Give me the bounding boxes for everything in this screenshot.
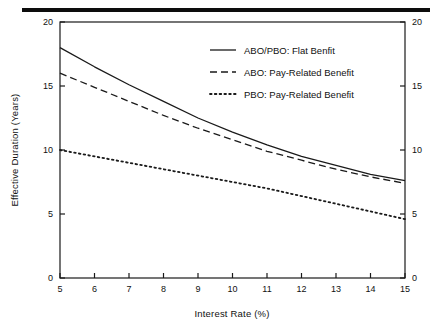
- y-tick-label-right: 10: [412, 145, 422, 155]
- x-tick-label: 7: [126, 284, 131, 294]
- x-tick-label: 13: [331, 284, 341, 294]
- x-tick-label: 10: [227, 284, 237, 294]
- series-line: [60, 150, 405, 219]
- x-tick-label: 5: [57, 284, 62, 294]
- x-axis-ticks: [60, 273, 405, 278]
- chart-canvas: 05101520 05101520 56789101112131415 ABO/…: [0, 0, 444, 326]
- x-axis-title: Interest Rate (%): [194, 308, 269, 319]
- legend: ABO/PBO: Flat BenfitABO: Pay-Related Ben…: [210, 45, 354, 100]
- x-tick-label: 12: [296, 284, 306, 294]
- figure-container: 05101520 05101520 56789101112131415 ABO/…: [0, 0, 444, 326]
- x-tick-label: 6: [92, 284, 97, 294]
- legend-label: PBO: Pay-Related Benefit: [244, 89, 354, 100]
- y-tick-label-left: 20: [43, 17, 53, 27]
- legend-label: ABO/PBO: Flat Benfit: [244, 45, 335, 56]
- y-tick-label-left: 10: [43, 145, 53, 155]
- legend-label: ABO: Pay-Related Benefit: [244, 67, 354, 78]
- x-axis-tick-labels: 56789101112131415: [57, 284, 410, 294]
- x-tick-label: 15: [400, 284, 410, 294]
- y-axis-right-tick-labels: 05101520: [412, 17, 422, 283]
- x-tick-label: 8: [161, 284, 166, 294]
- y-axis-left-tick-labels: 05101520: [43, 17, 53, 283]
- plot-frame: [60, 22, 405, 278]
- y-tick-label-right: 20: [412, 17, 422, 27]
- y-axis-title: Effective Duration (Years): [9, 94, 20, 207]
- y-axis-right-ticks: [400, 22, 405, 278]
- y-tick-label-right: 5: [412, 209, 417, 219]
- y-tick-label-right: 15: [412, 81, 422, 91]
- y-tick-label-right: 0: [412, 273, 417, 283]
- y-tick-label-left: 15: [43, 81, 53, 91]
- x-tick-label: 11: [262, 284, 271, 294]
- y-tick-label-left: 5: [48, 209, 53, 219]
- x-tick-label: 9: [195, 284, 200, 294]
- y-tick-label-left: 0: [48, 273, 53, 283]
- x-tick-label: 14: [365, 284, 375, 294]
